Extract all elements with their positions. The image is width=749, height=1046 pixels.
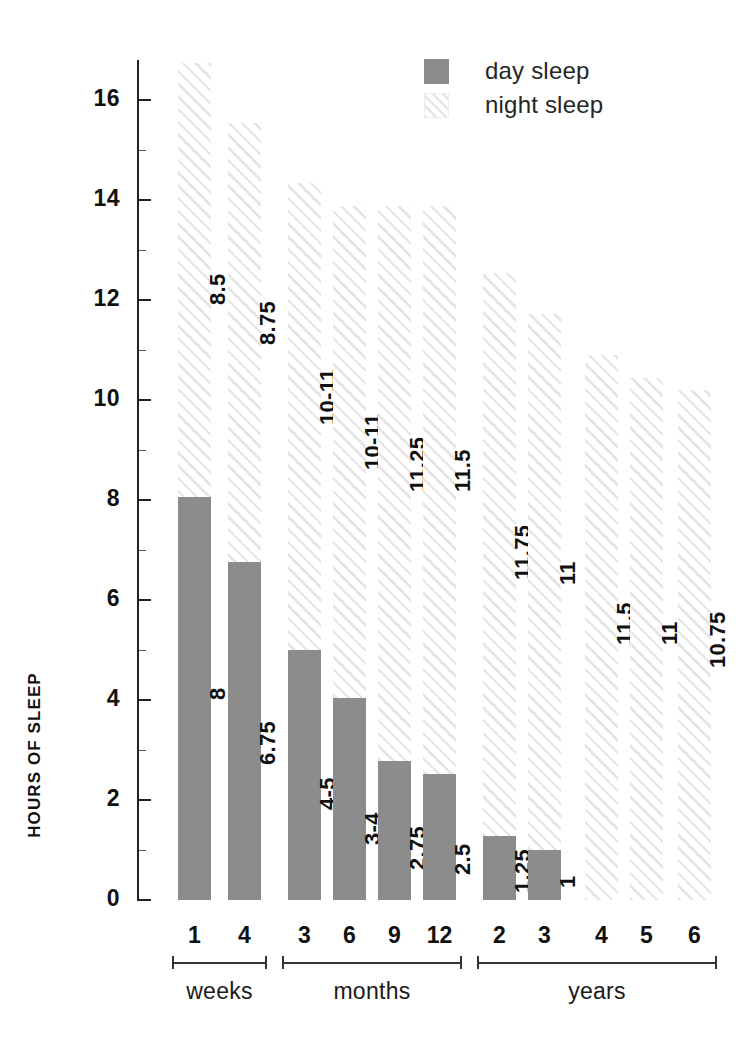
x-axis-tick-label: 2 xyxy=(477,922,523,949)
group-name-years: years xyxy=(477,978,717,1005)
x-axis-tick-label: 5 xyxy=(624,922,670,949)
day-sleep-bar xyxy=(288,650,321,900)
plot-area: 8.588.756.7510-114-510-113-411.252.7511.… xyxy=(0,0,749,1046)
group-bracket-cap xyxy=(282,956,284,969)
x-axis-tick-label: 4 xyxy=(579,922,625,949)
x-axis-tick-label: 1 xyxy=(172,922,218,949)
group-bracket-years xyxy=(477,962,717,964)
x-axis-tick-label: 12 xyxy=(417,922,463,949)
day-sleep-value-label: 1 xyxy=(555,875,581,888)
x-axis-tick-label: 3 xyxy=(522,922,568,949)
group-name-months: months xyxy=(282,978,462,1005)
night-sleep-bar xyxy=(528,314,561,900)
night-sleep-bar xyxy=(483,273,516,900)
group-bracket-months xyxy=(282,962,462,964)
x-axis-tick-label: 4 xyxy=(222,922,268,949)
group-bracket-cap xyxy=(477,956,479,969)
group-bracket-cap xyxy=(172,956,174,969)
day-sleep-value-label: 2.5 xyxy=(450,844,476,875)
x-axis-tick-label: 6 xyxy=(327,922,373,949)
night-sleep-value-label: 8.75 xyxy=(255,301,281,345)
night-sleep-value-label: 10.75 xyxy=(705,611,731,668)
x-axis-tick-label: 9 xyxy=(372,922,418,949)
day-sleep-bar xyxy=(423,774,456,900)
group-bracket-weeks xyxy=(172,962,267,964)
night-sleep-value-label: 11.5 xyxy=(450,449,476,492)
group-bracket-cap xyxy=(265,956,267,969)
group-bracket-cap xyxy=(715,956,717,969)
day-sleep-value-label: 6.75 xyxy=(255,721,281,765)
group-name-weeks: weeks xyxy=(172,978,267,1005)
sleep-hours-bar-chart: day sleep night sleep 0246810121416 HOUR… xyxy=(0,0,749,1046)
x-axis-tick-label: 6 xyxy=(672,922,718,949)
group-bracket-cap xyxy=(460,956,462,969)
day-sleep-bar xyxy=(333,698,366,900)
night-sleep-value-label: 11 xyxy=(555,561,581,585)
x-axis-tick-label: 3 xyxy=(282,922,328,949)
